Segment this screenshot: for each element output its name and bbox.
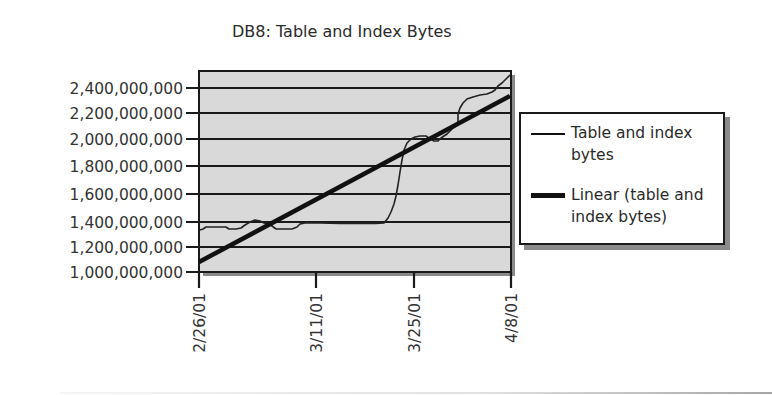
legend-item-series: Table and index bytes xyxy=(531,122,721,166)
legend-item-trendline: Linear (table and index bytes) xyxy=(531,184,721,228)
y-tick-label: 1,600,000,000 xyxy=(70,186,183,204)
x-tick-label: 2/26/01 xyxy=(191,293,209,353)
y-tick-label: 1,800,000,000 xyxy=(70,158,183,176)
y-tick-label: 1,200,000,000 xyxy=(70,239,183,257)
legend-label: Table and index bytes xyxy=(571,122,721,166)
y-tick-label: 1,000,000,000 xyxy=(70,264,183,282)
legend-label-line: Linear (table and xyxy=(571,186,704,204)
bottom-divider xyxy=(60,392,772,394)
legend-label-line: bytes xyxy=(571,146,614,164)
x-tick-label: 3/11/01 xyxy=(308,293,326,353)
legend-label-line: index bytes) xyxy=(571,208,667,226)
y-tick-label: 1,400,000,000 xyxy=(70,214,183,232)
y-axis-labels: 2,400,000,000 2,200,000,000 2,000,000,00… xyxy=(70,80,183,282)
y-tick-label: 2,200,000,000 xyxy=(70,105,183,123)
x-tick-label: 3/25/01 xyxy=(406,293,424,353)
legend: Table and index bytes Linear (table and … xyxy=(519,112,725,245)
y-tick-label: 2,400,000,000 xyxy=(70,80,183,98)
x-tick-label: 4/8/01 xyxy=(503,293,521,343)
x-axis-labels: 2/26/01 3/11/01 3/25/01 4/8/01 xyxy=(191,293,521,353)
legend-thin-line-icon xyxy=(531,133,565,135)
legend-thick-line-icon xyxy=(531,193,565,198)
legend-label-line: Table and index xyxy=(571,124,693,142)
legend-label: Linear (table and index bytes) xyxy=(571,184,721,228)
y-tick-label: 2,000,000,000 xyxy=(70,131,183,149)
